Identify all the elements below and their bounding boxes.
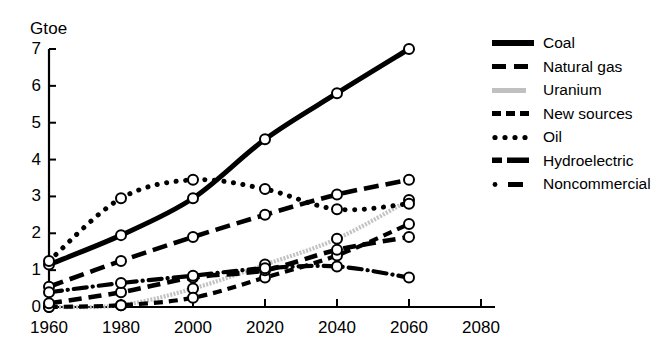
data-point-marker [188, 293, 198, 303]
legend: Coal Natural gas Uranium [492, 31, 662, 196]
data-point-marker [116, 278, 126, 288]
dotted-key-icon [492, 130, 534, 144]
data-point-marker [188, 193, 198, 203]
x-tick-label: 1960 [19, 319, 79, 336]
dash-dot-key-icon [492, 177, 534, 191]
y-tick-label: 5 [17, 114, 41, 131]
y-tick-label: 7 [17, 40, 41, 57]
legend-item-coal[interactable]: Coal [492, 31, 662, 55]
legend-item-noncommercial[interactable]: Noncommercial [492, 172, 662, 196]
data-point-marker [116, 230, 126, 240]
x-tick-label: 2040 [307, 319, 367, 336]
data-point-marker [44, 287, 54, 297]
y-tick-label: 3 [17, 187, 41, 204]
x-tick-label: 1980 [91, 319, 151, 336]
data-point-marker [404, 175, 414, 185]
legend-label-new-sources: New sources [543, 106, 633, 122]
data-point-marker [332, 245, 342, 255]
data-point-marker [116, 193, 126, 203]
data-point-marker [44, 256, 54, 266]
data-point-marker [188, 175, 198, 185]
legend-label-natural-gas: Natural gas [543, 59, 622, 75]
solid-thick-key-icon [492, 36, 534, 50]
legend-item-oil[interactable]: Oil [492, 125, 662, 149]
data-point-marker [44, 298, 54, 308]
data-point-marker [260, 210, 270, 220]
data-point-marker [260, 263, 270, 273]
data-point-marker [404, 199, 414, 209]
data-point-marker [188, 232, 198, 242]
data-point-marker [116, 256, 126, 266]
legend-item-new-sources[interactable]: New sources [492, 102, 662, 126]
y-tick-label: 4 [17, 151, 41, 168]
data-point-marker [332, 190, 342, 200]
x-tick-label: 2020 [235, 319, 295, 336]
data-point-marker [404, 232, 414, 242]
y-tick-label: 6 [17, 77, 41, 94]
legend-label-noncommercial: Noncommercial [543, 176, 651, 192]
y-tick-label: 0 [17, 298, 41, 315]
data-point-marker [404, 44, 414, 54]
light-hatch-key-icon [492, 83, 534, 97]
legend-item-hydroelectric[interactable]: Hydroelectric [492, 149, 662, 173]
data-point-marker [332, 88, 342, 98]
data-point-marker [404, 273, 414, 283]
data-point-marker [332, 234, 342, 244]
long-dash-key-icon [492, 59, 534, 73]
legend-label-oil: Oil [543, 129, 562, 145]
legend-item-uranium[interactable]: Uranium [492, 78, 662, 102]
legend-label-coal: Coal [543, 35, 575, 51]
data-point-marker [260, 134, 270, 144]
legend-label-hydroelectric: Hydroelectric [543, 153, 633, 169]
data-point-marker [260, 184, 270, 194]
series-layer [49, 49, 409, 307]
series-line-uranium [49, 200, 409, 307]
y-tick-label: 2 [17, 224, 41, 241]
data-point-marker [404, 219, 414, 229]
y-tick-label: 1 [17, 261, 41, 278]
energy-projection-chart: Gtoe 76543210 19601980200020202040206020… [0, 0, 665, 363]
short-dash-key-icon [492, 106, 534, 120]
data-point-marker [116, 300, 126, 310]
legend-label-uranium: Uranium [543, 82, 602, 98]
x-tick-label: 2060 [379, 319, 439, 336]
x-tick-label: 2080 [451, 319, 511, 336]
data-point-marker [332, 261, 342, 271]
data-point-marker [188, 271, 198, 281]
legend-item-natural-gas[interactable]: Natural gas [492, 55, 662, 79]
data-point-marker [332, 204, 342, 214]
medium-dash-key-icon [492, 153, 534, 167]
x-tick-label: 2000 [163, 319, 223, 336]
